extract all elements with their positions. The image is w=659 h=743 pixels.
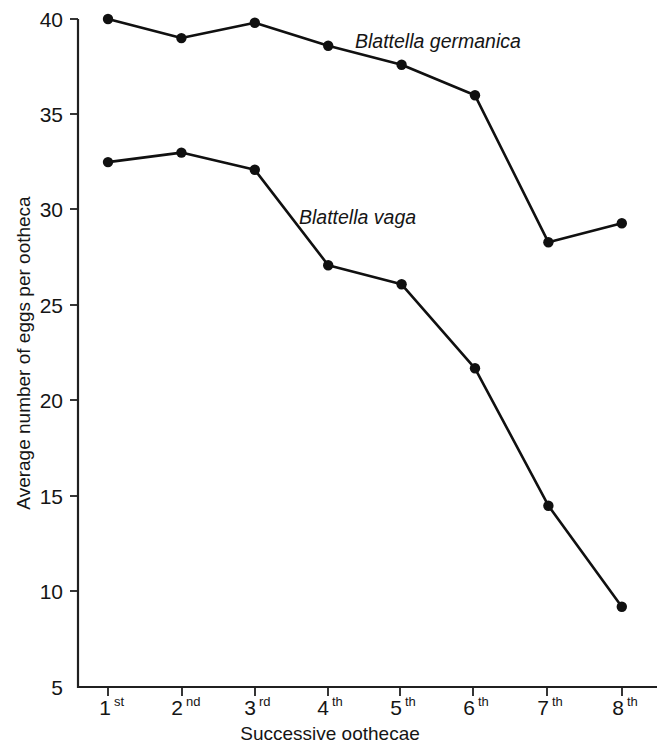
data-point-marker — [617, 602, 627, 612]
data-point-marker — [470, 90, 480, 100]
x-tick-label-1st: 1 st — [99, 694, 124, 719]
series-label-vaga: Blattella vaga — [299, 206, 416, 228]
x-tick-sup-3: rd — [259, 694, 271, 709]
x-axis-tick-labels: 1 st 2 nd 3 rd 4 th 5 th 6 th — [99, 694, 638, 719]
x-tick-label-8th: 8 th — [612, 694, 638, 719]
x-tick-num-3: 3 — [244, 696, 256, 719]
data-point-marker — [470, 363, 480, 373]
x-tick-sup-5: th — [405, 694, 416, 709]
y-tick-label-30: 30 — [40, 198, 63, 221]
y-tick-label-10: 10 — [40, 580, 63, 603]
x-tick-num-6: 6 — [463, 696, 475, 719]
x-tick-sup-6: th — [478, 694, 489, 709]
x-tick-num-5: 5 — [390, 696, 402, 719]
x-tick-num-2: 2 — [171, 696, 183, 719]
y-tick-label-25: 25 — [40, 294, 63, 317]
x-tick-label-2nd: 2 nd — [171, 694, 200, 719]
data-point-marker — [323, 41, 333, 51]
data-point-marker — [250, 165, 260, 175]
x-tick-num-4: 4 — [317, 696, 329, 719]
data-point-marker — [250, 18, 260, 28]
x-tick-num-1: 1 — [99, 696, 111, 719]
x-tick-label-5th: 5 th — [390, 694, 416, 719]
axis-spine-path — [78, 19, 657, 687]
x-tick-sup-7: th — [552, 694, 563, 709]
axis-spines — [78, 19, 657, 687]
x-tick-label-3rd: 3 rd — [244, 694, 270, 719]
data-point-marker — [396, 279, 406, 289]
x-tick-sup-4: th — [332, 694, 343, 709]
data-point-marker — [176, 147, 186, 157]
data-point-marker — [323, 260, 333, 270]
line-chart-canvas: 40 35 30 25 20 15 10 5 Average number of… — [0, 0, 659, 743]
data-point-marker — [543, 237, 553, 247]
y-axis-ticks — [70, 19, 78, 591]
x-tick-sup-1: st — [114, 694, 125, 709]
x-tick-sup-8: th — [627, 694, 638, 709]
y-tick-label-5: 5 — [51, 676, 63, 699]
data-point-marker — [543, 501, 553, 511]
data-point-marker — [103, 14, 113, 24]
data-point-marker — [176, 33, 186, 43]
data-point-marker — [396, 60, 406, 70]
x-tick-num-7: 7 — [537, 696, 549, 719]
x-tick-sup-2: nd — [186, 694, 200, 709]
data-point-marker — [103, 157, 113, 167]
y-tick-label-35: 35 — [40, 103, 63, 126]
x-tick-label-7th: 7 th — [537, 694, 563, 719]
x-tick-label-4th: 4 th — [317, 694, 343, 719]
x-tick-num-8: 8 — [612, 696, 624, 719]
y-tick-label-20: 20 — [40, 389, 63, 412]
chart-figure: 40 35 30 25 20 15 10 5 Average number of… — [0, 0, 659, 743]
data-series-layer — [103, 14, 627, 612]
y-tick-label-15: 15 — [40, 485, 63, 508]
data-point-marker — [617, 218, 627, 228]
series-label-germanica: Blattella germanica — [355, 30, 521, 52]
y-tick-label-40: 40 — [40, 8, 63, 31]
x-tick-label-6th: 6 th — [463, 694, 489, 719]
x-axis-title: Successive oothecae — [240, 723, 420, 743]
y-axis-tick-labels: 40 35 30 25 20 15 10 5 — [40, 8, 63, 699]
y-axis-title: Average number of eggs per ootheca — [13, 196, 34, 510]
